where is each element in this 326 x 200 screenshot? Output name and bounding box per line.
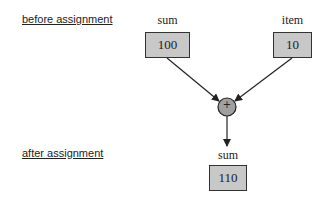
item-box: 10 bbox=[273, 32, 312, 58]
sum-after-name: sum bbox=[209, 148, 247, 163]
operator-symbol: + bbox=[221, 99, 233, 110]
sum-after-box: 110 bbox=[209, 165, 247, 191]
sum-before-box: 100 bbox=[145, 32, 190, 58]
connection-arrows bbox=[0, 0, 326, 200]
after-assignment-label: after assignment bbox=[22, 147, 103, 159]
before-assignment-label: before assignment bbox=[22, 13, 113, 25]
sum-before-name: sum bbox=[145, 13, 190, 28]
item-name: item bbox=[273, 13, 312, 28]
